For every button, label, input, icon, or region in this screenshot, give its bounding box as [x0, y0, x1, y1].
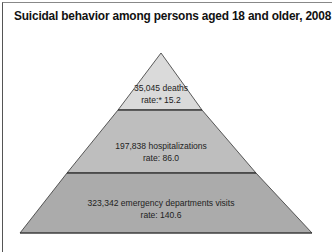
- deaths-rate: rate:* 15.2: [116, 94, 206, 106]
- level-label-deaths: 35,045 deaths rate:* 15.2: [116, 82, 206, 106]
- hospitalizations-count: 197,838 hospitalizations: [94, 140, 229, 152]
- level-label-emergency-visits: 323,342 emergency departments visits rat…: [71, 197, 251, 221]
- emergency-visits-rate: rate: 140.6: [71, 209, 251, 221]
- hospitalizations-rate: rate: 86.0: [94, 152, 229, 164]
- emergency-visits-count: 323,342 emergency departments visits: [71, 197, 251, 209]
- deaths-count: 35,045 deaths: [116, 82, 206, 94]
- level-label-hospitalizations: 197,838 hospitalizations rate: 86.0: [94, 140, 229, 164]
